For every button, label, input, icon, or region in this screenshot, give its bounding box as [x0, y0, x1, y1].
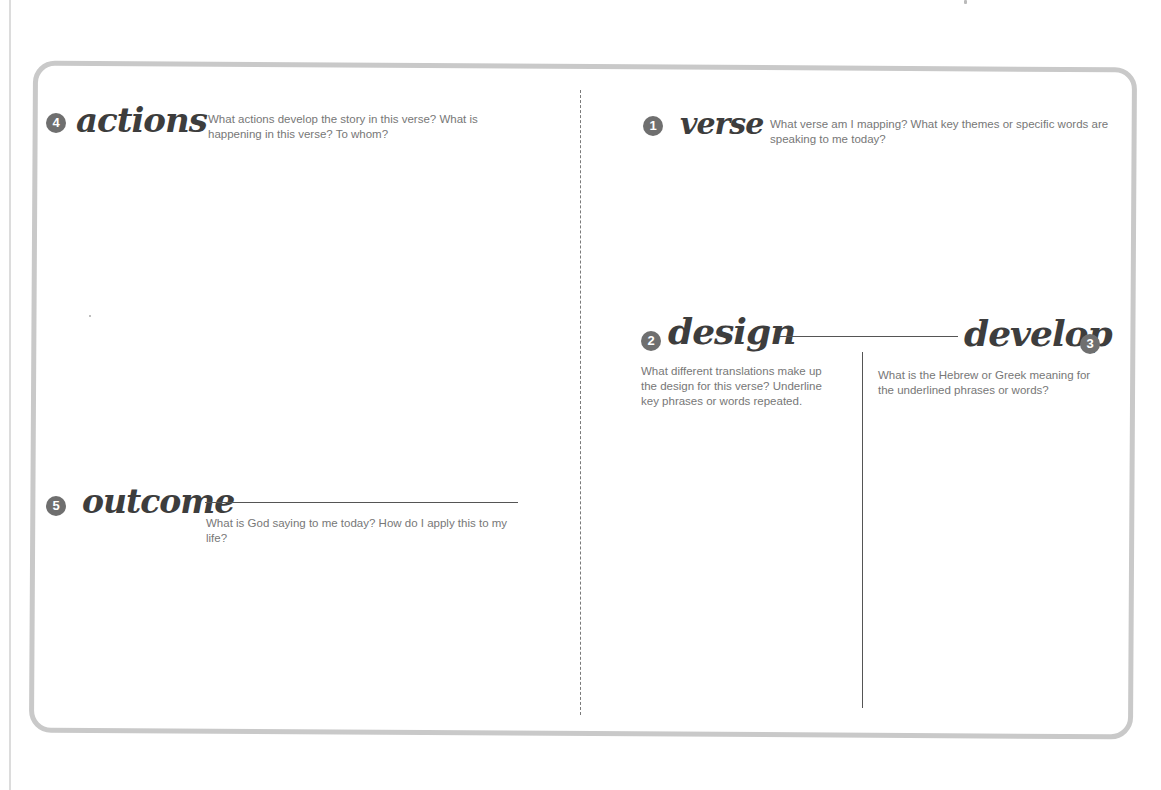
actions-prompt: What actions develop the story in this v… — [208, 112, 518, 142]
number-badge-3: 3 — [1080, 334, 1100, 354]
design-develop-divider — [862, 352, 863, 708]
number-badge-1: 1 — [643, 116, 663, 136]
outcome-rule — [205, 502, 518, 503]
outcome-writing-area[interactable] — [36, 550, 566, 720]
actions-writing-area[interactable] — [36, 160, 566, 470]
verse-prompt: What verse am I mapping? What key themes… — [770, 117, 1120, 147]
number-badge-5: 5 — [46, 496, 66, 516]
stray-mark — [89, 315, 91, 317]
page-edge-line — [9, 0, 11, 790]
stray-mark — [964, 0, 967, 4]
develop-writing-area[interactable] — [870, 410, 1120, 710]
develop-prompt: What is the Hebrew or Greek meaning for … — [878, 368, 1108, 398]
verse-writing-area[interactable] — [600, 160, 1120, 310]
actions-heading: actions — [76, 100, 207, 140]
design-prompt: What different translations make up the … — [641, 364, 831, 409]
center-dashed-divider — [580, 90, 581, 715]
number-badge-2: 2 — [641, 331, 661, 351]
design-develop-connector-line — [780, 336, 958, 337]
design-heading: design — [668, 310, 795, 352]
design-writing-area[interactable] — [640, 440, 855, 710]
verse-heading: verse — [680, 106, 763, 141]
outcome-prompt: What is God saying to me today? How do I… — [206, 516, 526, 546]
number-badge-4: 4 — [46, 113, 66, 133]
